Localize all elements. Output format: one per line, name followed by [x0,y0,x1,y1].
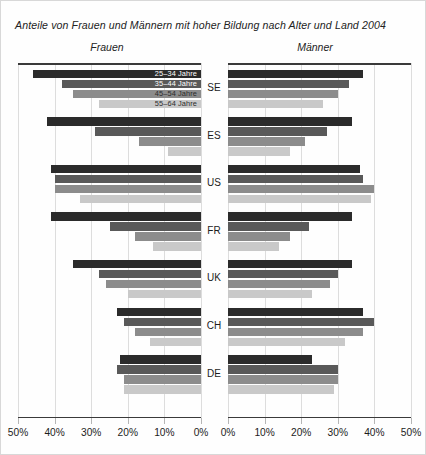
bar-frauen-se-0 [33,70,201,79]
bar-maenner-uk-3 [228,290,312,299]
country-group-de: DE [1,351,426,399]
bar-frauen-uk-3 [128,290,201,299]
tick-left-20% [128,418,129,424]
bar-maenner-se-1 [228,80,349,89]
tick-right-50% [411,418,412,424]
x-axis-label-left-2: 30% [71,427,111,438]
bar-maenner-us-2 [228,185,374,194]
x-axis-label-right-1: 10% [245,427,285,438]
bar-maenner-uk-2 [228,280,330,289]
bar-frauen-ch-2 [135,328,201,337]
bar-maenner-se-2 [228,90,338,99]
bar-maenner-us-0 [228,165,360,174]
bar-frauen-fr-0 [51,212,201,221]
bar-maenner-es-0 [228,117,352,126]
bar-frauen-es-2 [139,137,201,146]
country-label-ch: CH [197,320,231,331]
bar-frauen-de-2 [124,375,201,384]
country-group-fr: FR [1,208,426,256]
bar-maenner-de-2 [228,375,338,384]
bar-maenner-fr-3 [228,242,279,251]
tick-left-50% [18,418,19,424]
country-group-ch: CH [1,303,426,351]
country-label-us: US [197,177,231,188]
bar-frauen-fr-1 [110,222,202,231]
bar-frauen-ch-0 [117,308,201,317]
x-axis-label-right-5: 50% [391,427,426,438]
bar-frauen-de-3 [124,385,201,394]
country-label-se: SE [197,82,231,93]
bar-frauen-us-0 [51,165,201,174]
x-axis-label-right-4: 40% [354,427,394,438]
tick-left-40% [55,418,56,424]
country-label-es: ES [197,130,231,141]
x-axis-label-left-3: 20% [108,427,148,438]
tick-right-20% [301,418,302,424]
country-label-fr: FR [197,225,231,236]
x-axis-label-right-0: 0% [208,427,248,438]
bar-frauen-uk-2 [106,280,201,289]
bar-frauen-uk-1 [99,270,201,279]
country-label-uk: UK [197,272,231,283]
tick-right-40% [374,418,375,424]
bar-frauen-fr-3 [153,242,201,251]
bar-maenner-se-3 [228,100,323,109]
tick-right-0% [228,418,229,424]
bar-maenner-fr-0 [228,212,352,221]
bar-maenner-ch-2 [228,328,363,337]
bar-maenner-se-0 [228,70,363,79]
bar-maenner-us-1 [228,175,363,184]
country-group-us: US [1,160,426,208]
x-axis: 50%40%30%20%10%0%0%10%20%30%40%50% [1,418,426,455]
country-label-de: DE [197,368,231,379]
bar-frauen-es-3 [168,147,201,156]
plot-area: SEESUSFRUKCHDE25–34 Jahre35–44 Jahre45–5… [1,63,426,418]
tick-left-30% [91,418,92,424]
x-axis-label-right-2: 20% [281,427,321,438]
bar-maenner-fr-2 [228,232,290,241]
bar-maenner-ch-0 [228,308,363,317]
bar-frauen-us-3 [80,195,201,204]
x-axis-label-left-4: 10% [144,427,184,438]
country-group-se: SE [1,65,426,113]
bar-frauen-uk-0 [73,260,201,269]
bar-frauen-se-2 [73,90,201,99]
bar-frauen-us-1 [55,175,201,184]
bar-maenner-fr-1 [228,222,309,231]
bar-frauen-ch-3 [150,338,201,347]
bar-maenner-ch-3 [228,338,345,347]
bar-frauen-de-1 [117,365,201,374]
bar-frauen-se-3 [99,100,201,109]
bar-maenner-uk-1 [228,270,338,279]
country-group-es: ES [1,113,426,161]
bar-frauen-es-0 [47,117,201,126]
page-title: Anteile von Frauen und Männern mit hoher… [15,19,415,31]
x-axis-label-right-3: 30% [318,427,358,438]
tick-left-0% [201,418,202,424]
x-axis-label-left-1: 40% [35,427,75,438]
bar-maenner-es-1 [228,127,327,136]
bar-frauen-de-0 [120,355,201,364]
bar-maenner-es-2 [228,137,305,146]
country-group-uk: UK [1,255,426,303]
x-axis-label-left-0: 50% [0,427,38,438]
panel-caption-maenner: Männer [275,41,355,53]
bar-maenner-uk-0 [228,260,352,269]
bar-maenner-de-3 [228,385,334,394]
tick-right-30% [338,418,339,424]
bar-frauen-se-1 [62,80,201,89]
tick-right-10% [265,418,266,424]
bar-maenner-es-3 [228,147,290,156]
chart-page: Anteile von Frauen und Männern mit hoher… [0,0,426,455]
bar-frauen-ch-1 [124,318,201,327]
panel-caption-frauen: Frauen [67,41,147,53]
bar-maenner-us-3 [228,195,371,204]
bar-frauen-fr-2 [135,232,201,241]
bar-frauen-us-2 [55,185,201,194]
bar-maenner-de-0 [228,355,312,364]
tick-left-10% [164,418,165,424]
bar-frauen-es-1 [95,127,201,136]
bar-maenner-de-1 [228,365,338,374]
bar-maenner-ch-1 [228,318,374,327]
